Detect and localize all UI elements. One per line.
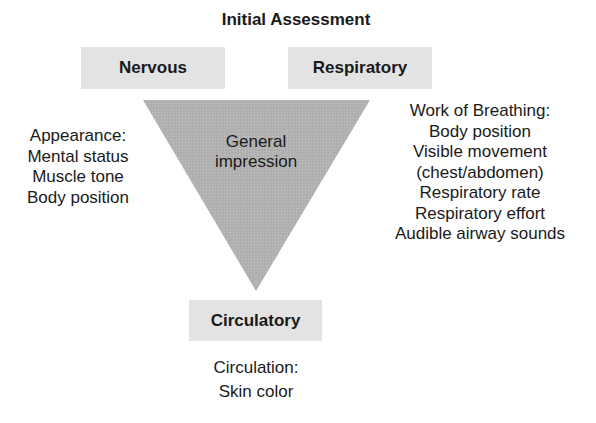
- circulatory-label: Circulatory: [211, 311, 301, 331]
- work-of-breathing-heading: Work of Breathing:: [365, 101, 595, 122]
- appearance-heading: Appearance:: [0, 126, 156, 147]
- work-of-breathing-item: Body position: [365, 122, 595, 143]
- circulation-heading: Circulation:: [176, 356, 336, 380]
- triangle-label-line-2: impression: [196, 152, 316, 172]
- circulation-list: Circulation: Skin color: [176, 356, 336, 404]
- circulatory-box: Circulatory: [189, 300, 322, 341]
- general-impression-label: General impression: [196, 132, 316, 172]
- work-of-breathing-item: Respiratory rate: [365, 183, 595, 204]
- work-of-breathing-item: Audible airway sounds: [365, 224, 595, 245]
- appearance-item: Muscle tone: [0, 167, 156, 188]
- work-of-breathing-item: (chest/abdomen): [365, 163, 595, 184]
- work-of-breathing-list: Work of Breathing: Body position Visible…: [365, 101, 595, 245]
- appearance-item: Body position: [0, 188, 156, 209]
- triangle-label-line-1: General: [196, 132, 316, 152]
- work-of-breathing-item: Visible movement: [365, 142, 595, 163]
- circulation-item: Skin color: [176, 380, 336, 404]
- appearance-list: Appearance: Mental status Muscle tone Bo…: [0, 126, 156, 208]
- appearance-item: Mental status: [0, 147, 156, 168]
- work-of-breathing-item: Respiratory effort: [365, 204, 595, 225]
